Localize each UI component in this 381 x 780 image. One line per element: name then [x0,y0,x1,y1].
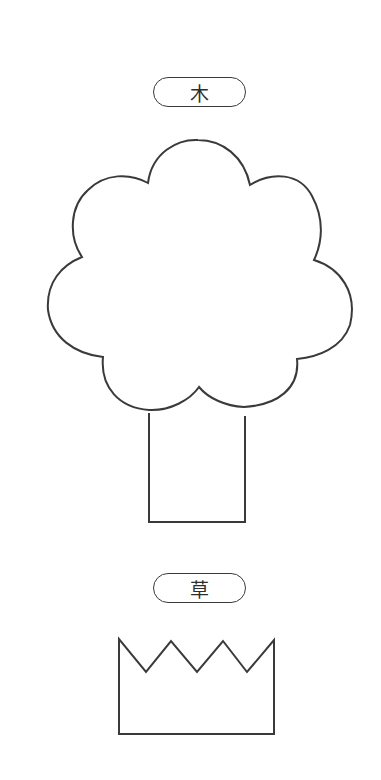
drawing-canvas [0,0,381,780]
tree-trunk-shape [149,413,245,522]
grass-shape [119,639,274,734]
grass-label-text: 草 [190,575,209,602]
tree-crown-shape [48,140,352,410]
grass-label: 草 [153,573,246,603]
